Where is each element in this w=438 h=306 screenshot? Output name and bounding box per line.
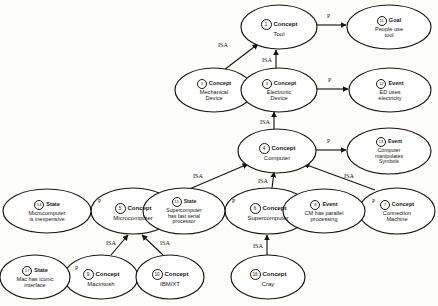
node-ellipse-goal[interactable] <box>347 5 431 49</box>
edge-label-macintosh-iconic: P <box>75 265 78 271</box>
node-ellipse-electronic[interactable] <box>241 68 317 112</box>
edge-label-ibmxt-microcomputer: ISA <box>160 239 170 246</box>
diagram-canvas: PISAISAPISAPISAPISAPISAPISAISAPISA1Conce… <box>0 0 438 306</box>
node-ellipse-tool[interactable] <box>241 5 317 49</box>
edge-label-supercomputer-computer: ISA <box>258 177 268 184</box>
node-ellipse-cray[interactable] <box>231 255 305 299</box>
edge-label-electronic-edelec: P <box>328 77 331 83</box>
edge-label-computer-symbols: P <box>327 138 330 144</box>
edge-label-macintosh-microcomputer: ISA <box>106 239 116 246</box>
node-ellipse-cmparallel[interactable] <box>283 189 365 233</box>
edge-label-microcomputer-computer: ISA <box>193 172 203 179</box>
edge-label-computer-electronic: ISA <box>260 118 270 125</box>
edge-supercomputer-to-computer <box>272 172 274 188</box>
edge-label-electronic-tool: ISA <box>262 56 272 63</box>
node-ellipse-macintosh[interactable] <box>64 255 138 299</box>
node-ellipse-computer[interactable] <box>238 129 316 173</box>
node-ellipse-serialproc[interactable] <box>143 188 225 234</box>
edge-mechanical-to-tool <box>224 44 258 70</box>
edge-label-cray-supercomputer: ISA <box>253 242 263 249</box>
edge-label-connection-computer: ISA <box>344 172 354 179</box>
node-ellipse-iconic[interactable] <box>0 255 70 299</box>
edge-label-tool-goal: P <box>327 13 330 19</box>
node-ellipse-inexpensive[interactable] <box>3 189 91 233</box>
edge-label-connection-cmparallel: P <box>372 198 375 204</box>
node-ellipse-ibmxt[interactable] <box>136 255 204 299</box>
node-ellipse-symbols[interactable] <box>347 128 431 174</box>
edge-label-microcomputer-inexpensive: P <box>98 198 101 204</box>
node-ellipse-edelec[interactable] <box>349 68 431 112</box>
edge-label-supercomputer-serialproc: P <box>232 198 235 204</box>
node-ellipse-connection[interactable] <box>359 188 435 234</box>
edge-label-mechanical-tool: ISA <box>218 41 228 48</box>
